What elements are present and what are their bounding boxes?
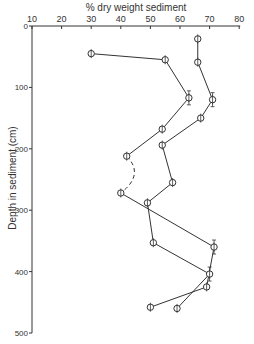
series-segment [162,145,172,182]
y-tick-label: 0 [24,22,29,31]
series-segment [150,287,206,307]
dashed-connector [121,156,135,193]
y-tick-label: 200 [15,145,29,154]
x-axis-title: % dry weight sediment [86,2,187,13]
y-tick-label: 500 [15,329,29,338]
series-segment [153,243,209,274]
series-segment [127,129,163,156]
depth-profile-chart: % dry weight sediment Depth in sediment … [0,0,254,344]
series-segment [147,203,153,243]
y-tick-label: 100 [15,83,29,92]
x-tick-label: 70 [205,14,215,24]
x-axis: 1020304050607080 [27,14,244,29]
x-tick-label: 20 [57,14,67,24]
x-tick-label: 10 [27,14,37,24]
series-b [144,34,216,313]
series-segment [91,54,165,60]
x-tick-label: 50 [145,14,155,24]
y-tick-label: 300 [15,206,29,215]
series-segment [147,183,172,203]
series-segment [198,62,213,99]
chart-svg: % dry weight sediment Depth in sediment … [0,0,254,344]
y-tick-label: 400 [15,268,29,277]
series-segment [162,98,189,129]
x-tick-label: 60 [175,14,185,24]
series-segment [165,60,189,98]
x-tick-label: 40 [116,14,126,24]
x-tick-label: 80 [234,14,244,24]
series-a [88,49,217,312]
data-series [88,34,217,313]
series-segment [177,274,210,308]
x-tick-label: 30 [86,14,96,24]
series-segment [121,193,214,247]
